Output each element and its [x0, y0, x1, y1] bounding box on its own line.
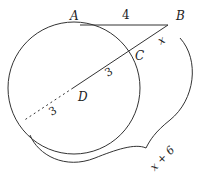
circle: [8, 22, 140, 154]
measure-dashed: 3: [46, 104, 59, 119]
measure-ab: 4: [122, 8, 130, 22]
point-label-b: B: [175, 9, 185, 23]
point-label-a: A: [69, 9, 79, 23]
point-label-c: C: [135, 49, 144, 63]
point-label-d: D: [77, 90, 88, 104]
secant-segment-bd: [73, 25, 168, 88]
measure-brace: x + 6: [147, 144, 177, 174]
geometry-diagram: A B C D 4 x 3 3 x + 6: [0, 0, 200, 174]
dashed-radius: [23, 88, 73, 121]
measure-cd: 3: [102, 65, 115, 80]
measure-bc: x: [155, 33, 168, 48]
